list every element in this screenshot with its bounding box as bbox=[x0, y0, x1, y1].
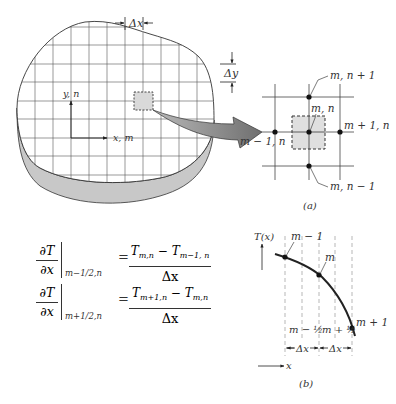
y-axis-label: y, n bbox=[62, 88, 79, 99]
node-bottom bbox=[306, 163, 311, 168]
node-center bbox=[306, 129, 311, 134]
eq2-lhs-num: ∂T bbox=[36, 285, 58, 301]
eq1-equals: = bbox=[118, 249, 129, 264]
eq1-eval-bar bbox=[61, 242, 62, 278]
point-label-m-minus-1: m − 1 bbox=[291, 230, 323, 242]
dx-label: Δx bbox=[128, 17, 144, 30]
eq2-rhs-num: Tm+1,n − Tm,n bbox=[129, 285, 211, 306]
node-label-center: m, n bbox=[311, 102, 335, 114]
eq1-rhs-den: Δx bbox=[129, 269, 211, 285]
node-label-bottom: m, n − 1 bbox=[330, 180, 376, 192]
node-stencil bbox=[262, 76, 354, 187]
spacing-label-1: Δx bbox=[295, 343, 309, 354]
node-label-right: m + 1, n bbox=[344, 119, 390, 131]
eq1-rhs-bar bbox=[129, 266, 211, 267]
node-label-left: m − 1, n bbox=[240, 135, 286, 147]
highlighted-cell bbox=[134, 92, 153, 110]
x-axis-label-b: x bbox=[286, 360, 292, 371]
eq2-lhs: ∂T ∂x bbox=[36, 285, 58, 320]
point-label-m: m bbox=[325, 251, 335, 263]
eq2-lhs-bar bbox=[36, 302, 58, 303]
dy-label: Δy bbox=[223, 67, 239, 80]
eq1-rhs-num: Tm,n − Tm−1, n bbox=[129, 243, 211, 264]
plate-top-face bbox=[17, 21, 214, 182]
caption-b: (b) bbox=[299, 378, 313, 389]
eq1-lhs-den: ∂x bbox=[36, 262, 58, 278]
diagram-canvas: Δx Δy y, n x, m m, n + 1 m, bbox=[0, 0, 396, 404]
plate-figure bbox=[0, 0, 262, 210]
node-top bbox=[306, 94, 311, 99]
eq2-eval-bar bbox=[61, 284, 62, 320]
node-label-top: m, n + 1 bbox=[330, 69, 376, 81]
eq1-eval-at: m−1/2,n bbox=[65, 268, 102, 278]
point-label-m-plus-1: m + 1 bbox=[356, 316, 388, 328]
t-axis-label: T(x) bbox=[254, 231, 274, 242]
eq1-lhs-bar bbox=[36, 260, 58, 261]
node-right bbox=[337, 129, 342, 134]
node-left bbox=[272, 129, 277, 134]
caption-a: (a) bbox=[303, 200, 317, 211]
x-axis-label: x, m bbox=[113, 132, 133, 143]
half-label-plus: m + ½ bbox=[322, 324, 356, 335]
eq2-equals: = bbox=[118, 291, 129, 306]
eq1-rhs: Tm,n − Tm−1, n Δx bbox=[129, 243, 211, 285]
eq2-lhs-den: ∂x bbox=[36, 304, 58, 320]
eq1-lhs: ∂T ∂x bbox=[36, 243, 58, 278]
eq2-rhs: Tm+1,n − Tm,n Δx bbox=[129, 285, 211, 327]
eq2-eval-at: m+1/2,n bbox=[65, 311, 102, 321]
point-m bbox=[316, 272, 321, 277]
eq2-rhs-bar bbox=[129, 308, 211, 309]
eq1-lhs-num: ∂T bbox=[36, 243, 58, 259]
spacing-label-2: Δx bbox=[328, 343, 342, 354]
eq2-rhs-den: Δx bbox=[129, 311, 211, 327]
half-label-minus: m − ½ bbox=[289, 324, 323, 335]
